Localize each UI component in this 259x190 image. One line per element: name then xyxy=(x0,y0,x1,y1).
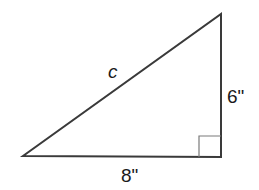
hypotenuse-label: c xyxy=(108,61,118,82)
triangle-shape xyxy=(23,14,221,157)
right-triangle-diagram: c 6" 8" xyxy=(0,0,259,190)
vertical-side-label: 6" xyxy=(227,86,244,107)
right-angle-marker xyxy=(199,136,221,157)
horizontal-side-label: 8" xyxy=(121,165,138,186)
